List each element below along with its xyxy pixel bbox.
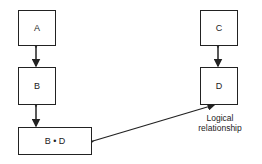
- box-a: A: [18, 10, 56, 46]
- box-c-label: C: [216, 23, 223, 33]
- box-a-label: A: [34, 23, 40, 33]
- annotation-line-1: Logical: [190, 113, 250, 123]
- box-b-d-label: B • D: [45, 136, 66, 146]
- logical-relationship-annotation: Logical relationship: [190, 113, 250, 133]
- box-b-label: B: [34, 81, 40, 91]
- box-b-d: B • D: [18, 127, 92, 155]
- box-d: D: [200, 67, 238, 105]
- box-c: C: [200, 10, 238, 46]
- annotation-line-2: relationship: [190, 123, 250, 133]
- box-b: B: [18, 67, 56, 105]
- box-d-label: D: [216, 81, 223, 91]
